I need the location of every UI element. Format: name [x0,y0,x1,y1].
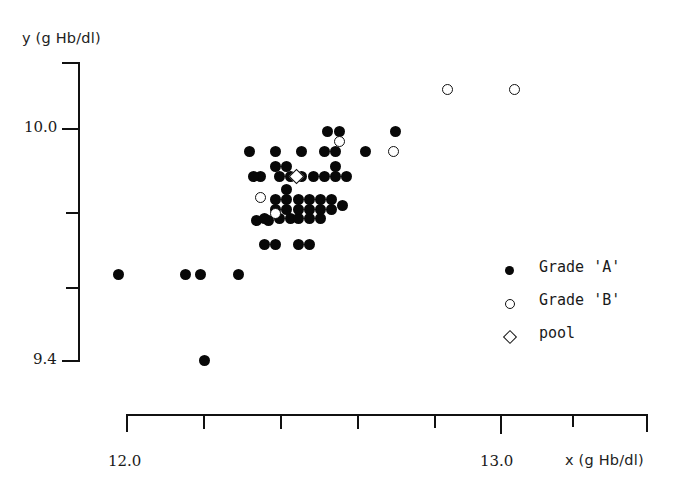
data-point-filled-circle [304,204,315,215]
data-point-filled-circle [326,204,337,215]
data-point-open-circle [255,192,266,203]
data-point-filled-circle [304,239,315,250]
data-point-filled-circle [270,146,281,157]
data-points-layer [0,0,675,502]
data-point-filled-circle [330,146,341,157]
data-point-open-circle [442,84,453,95]
data-point-filled-circle [319,171,330,182]
data-point-filled-circle [199,355,210,366]
data-point-filled-circle [360,146,371,157]
data-point-filled-circle [296,146,307,157]
data-point-filled-circle [248,171,259,182]
data-point-filled-circle [281,194,292,205]
data-point-open-circle [509,84,520,95]
data-point-filled-circle [315,204,326,215]
data-point-filled-circle [244,146,255,157]
data-point-filled-circle [337,200,348,211]
data-point-filled-circle [322,126,333,137]
data-point-filled-circle [315,213,326,224]
data-point-filled-circle [326,194,337,205]
data-point-filled-circle [293,194,304,205]
data-point-filled-circle [259,239,270,250]
data-point-filled-circle [315,194,326,205]
data-point-filled-circle [281,204,292,215]
data-point-filled-circle [293,204,304,215]
data-point-filled-circle [274,171,285,182]
data-point-open-circle [270,208,281,219]
scatter-plot-figure: y (g Hb/dl) x (g Hb/dl) 10.0 9.4 12.0 13… [0,0,675,502]
data-point-filled-circle [304,213,315,224]
data-point-filled-circle [233,269,244,280]
data-point-filled-circle [304,194,315,205]
data-point-filled-circle [330,171,341,182]
data-point-filled-circle [195,269,206,280]
data-point-filled-circle [341,171,352,182]
data-point-filled-circle [293,239,304,250]
data-point-filled-circle [319,146,330,157]
data-point-filled-circle [180,269,191,280]
data-point-open-circle [388,146,399,157]
data-point-filled-circle [293,213,304,224]
legend-label-grade-a: Grade 'A' [539,258,620,276]
data-point-filled-circle [390,126,401,137]
legend-label-grade-b: Grade 'B' [539,291,620,309]
data-point-filled-circle [281,184,292,195]
data-point-filled-circle [308,171,319,182]
data-point-filled-circle [113,269,124,280]
data-point-filled-circle [270,194,281,205]
legend-label-pool: pool [539,324,575,342]
data-point-filled-circle [270,239,281,250]
data-point-filled-circle [330,161,341,172]
data-point-open-circle [334,136,345,147]
